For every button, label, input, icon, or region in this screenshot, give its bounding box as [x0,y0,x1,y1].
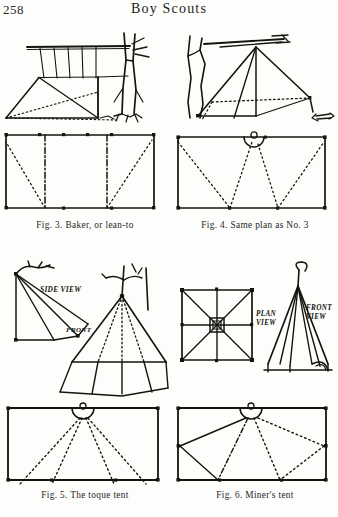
fig5-sketch: SIDE VIEW FRONT [2,258,170,398]
fig6-plan [172,400,338,485]
fig4-caption: Fig. 4. Same plan as No. 3 [172,220,338,230]
fig5-plan [2,400,170,485]
fig3-sketch [2,30,168,126]
fig3-caption: Fig. 3. Baker, or lean-to [2,220,168,230]
fig4-sketch [172,30,338,126]
fig6-sketch: PLAN VIEW FRONT VIEW [172,258,338,398]
fig5-side-view-label: SIDE VIEW [40,285,81,294]
figure-fig6: PLAN VIEW FRONT VIEW [172,258,338,513]
fig5-caption: Fig. 5. The toque tent [2,490,168,500]
running-head: 258 Boy Scouts [0,0,338,26]
figure-fig3: Fig. 3. Baker, or lean-to [2,30,168,242]
fig4-plan [172,130,338,215]
fig6-plan-view-label: PLAN [256,310,276,318]
figure-fig4: Fig. 4. Same plan as No. 3 [172,30,338,242]
book-title: Boy Scouts [0,1,338,17]
fig6-caption: Fig. 6. Miner's tent [172,490,338,500]
fig5-front-label: FRONT [66,326,92,334]
figure-fig5: SIDE VIEW FRONT [2,258,168,513]
fig6-plan-view-label-2: VIEW [256,319,276,327]
book-page: 258 Boy Scouts [0,0,338,517]
fig6-front-view-label-2: VIEW [306,313,326,321]
fig3-plan [2,130,168,215]
fig6-front-view-label: FRONT [306,304,332,312]
